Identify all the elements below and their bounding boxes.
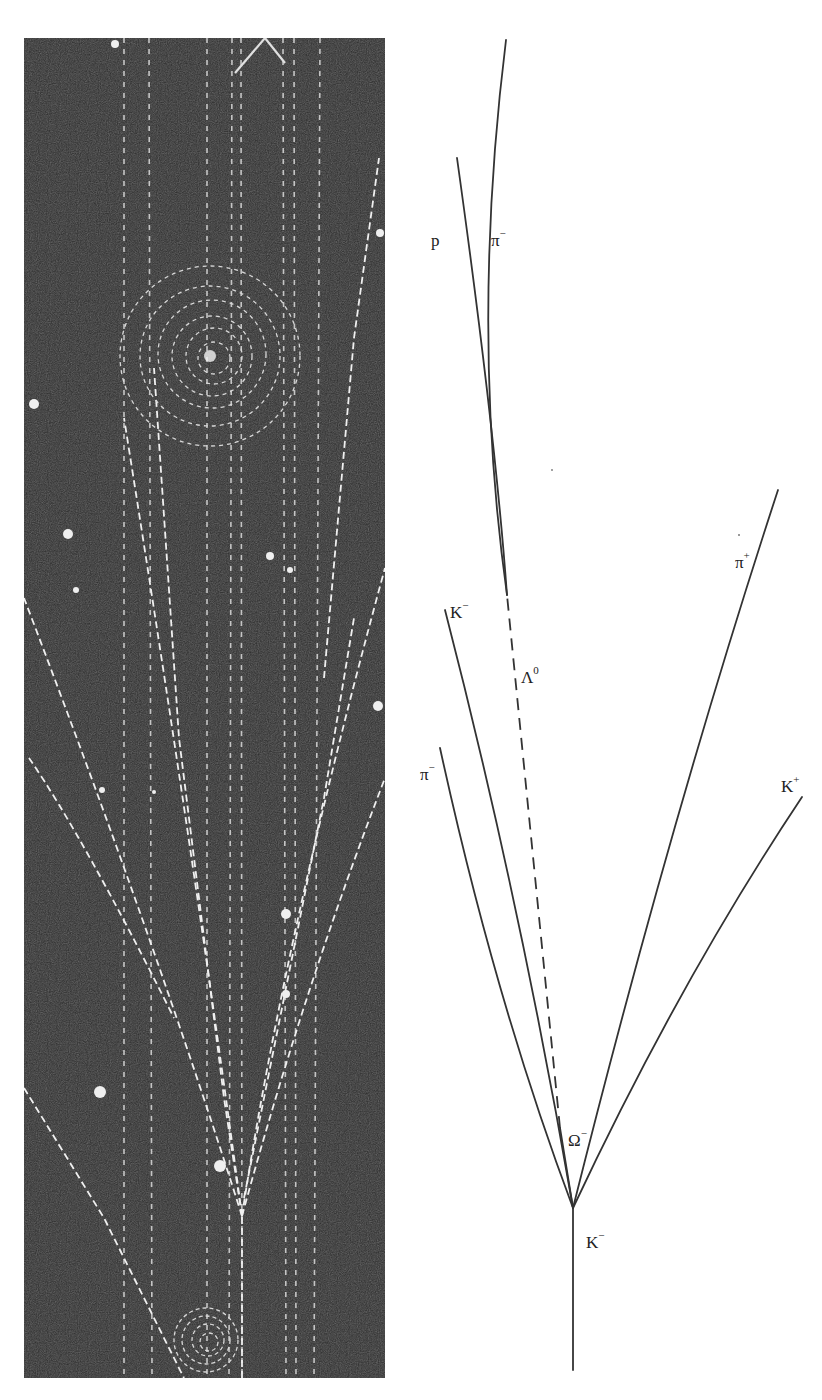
label-pi-plus: π+ (735, 552, 750, 571)
label-proton: p (431, 232, 440, 249)
track-pi-minus-top (488, 40, 507, 595)
omega-minus-discovery-figure: p π− K− Λ0 π+ π− K+ Ω− K− (0, 0, 822, 1400)
label-pi-plus-base: π (735, 553, 744, 572)
track-pi-plus (573, 490, 778, 1208)
bubble-chamber-photo (24, 38, 385, 1378)
label-pi-plus-sup: + (744, 549, 750, 561)
track-lines (400, 0, 822, 1400)
label-k-minus-upper: K− (450, 602, 469, 621)
label-k-plus-sup: + (793, 773, 799, 785)
label-pi-minus-left-base: π (420, 765, 429, 784)
label-omega-minus-base: Ω (568, 1131, 581, 1150)
label-pi-minus-top-base: π (491, 231, 500, 250)
label-proton-text: p (431, 231, 440, 250)
label-k-minus-beam-base: K (586, 1233, 598, 1252)
label-k-minus-beam: K− (586, 1232, 605, 1251)
label-lambda0-base: Λ (521, 668, 533, 687)
track-k-plus (573, 797, 802, 1208)
label-omega-minus-sup: − (581, 1127, 587, 1139)
label-k-minus-upper-base: K (450, 603, 462, 622)
label-lambda0-sup: 0 (533, 664, 539, 676)
track-k-minus-upper (445, 610, 573, 1208)
label-pi-minus-left-sup: − (429, 761, 435, 773)
label-pi-minus-left: π− (420, 764, 435, 783)
label-pi-minus-top-sup: − (500, 227, 506, 239)
label-k-minus-upper-sup: − (462, 599, 468, 611)
label-pi-minus-top: π− (491, 230, 506, 249)
label-lambda0: Λ0 (521, 667, 539, 686)
track-interpretation-diagram: p π− K− Λ0 π+ π− K+ Ω− K− (400, 0, 822, 1400)
label-omega-minus: Ω− (568, 1130, 587, 1149)
track-pi-minus-left (440, 748, 573, 1208)
label-k-minus-beam-sup: − (598, 1229, 604, 1241)
bubble-chamber-tracks (24, 38, 385, 1378)
label-k-plus: K+ (781, 776, 800, 795)
label-k-plus-base: K (781, 777, 793, 796)
